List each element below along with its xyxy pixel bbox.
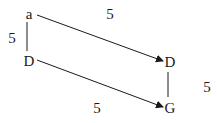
node-d-left: D bbox=[24, 54, 35, 69]
edge-label-top-arrow: 5 bbox=[106, 7, 114, 22]
edge-label-right-vertical: 5 bbox=[203, 80, 211, 95]
node-d-right: D bbox=[165, 55, 176, 70]
edge-label-bottom-arrow: 5 bbox=[93, 101, 101, 116]
node-g: G bbox=[165, 101, 176, 116]
diagram-canvas: a D D G 5 5 5 5 bbox=[0, 0, 217, 123]
edge-a-to-d-right-arrow bbox=[37, 15, 163, 61]
edge-label-left-vertical: 5 bbox=[8, 31, 16, 46]
node-a: a bbox=[26, 7, 33, 22]
